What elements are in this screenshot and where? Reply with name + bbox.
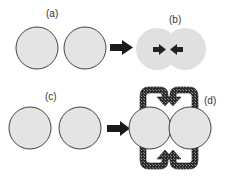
panel-a: (a) xyxy=(16,8,106,69)
arrow-right-icon xyxy=(110,40,133,55)
panel-a-label: (a) xyxy=(46,8,58,19)
panel-d: (d) xyxy=(129,87,216,169)
panel-c: (c) xyxy=(9,91,101,149)
particle-circle xyxy=(59,107,101,149)
panel-b: (b) xyxy=(136,14,206,70)
particle-circle xyxy=(9,107,51,149)
particle-circle xyxy=(16,27,58,69)
particle-circle xyxy=(64,27,106,69)
panel-b-label: (b) xyxy=(169,14,181,25)
diagram: (a) (b) (c) (d) xyxy=(0,0,226,178)
particle-circle xyxy=(129,107,171,149)
arrow-right-icon xyxy=(107,121,130,136)
panel-d-label: (d) xyxy=(204,95,216,106)
particle-circle xyxy=(169,107,211,149)
panel-c-label: (c) xyxy=(45,91,57,102)
